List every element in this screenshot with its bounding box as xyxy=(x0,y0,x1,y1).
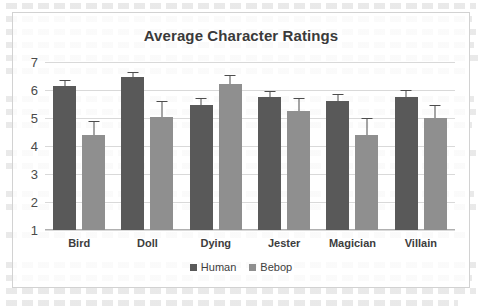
background-text-line xyxy=(6,288,476,294)
error-bar xyxy=(201,98,202,105)
legend-label: Human xyxy=(201,261,236,273)
bar-rect xyxy=(150,117,173,230)
bar-rect xyxy=(395,97,418,230)
error-bar xyxy=(337,94,338,102)
bar-human-dying[interactable] xyxy=(190,62,213,230)
bar-rect xyxy=(326,101,349,230)
bar-rect xyxy=(82,135,105,230)
background-text-line xyxy=(6,3,476,9)
legend-item-human[interactable]: Human xyxy=(190,261,236,273)
error-bar-cap xyxy=(196,98,207,99)
bar-bebop-dying[interactable] xyxy=(219,62,242,230)
y-tick-label-2: 2 xyxy=(31,196,38,209)
y-tick-label-7: 7 xyxy=(31,56,38,69)
bar-group-jester: Jester xyxy=(250,62,318,230)
chart-title: Average Character Ratings xyxy=(13,27,469,44)
x-tick-label-jester: Jester xyxy=(250,237,318,249)
error-bar xyxy=(93,121,94,135)
error-bar-cap xyxy=(88,121,99,122)
bar-bebop-jester[interactable] xyxy=(287,62,310,230)
error-bar xyxy=(406,90,407,97)
error-bar-cap xyxy=(430,105,441,106)
bar-rect xyxy=(121,77,144,230)
y-tick-label-4: 4 xyxy=(31,140,38,153)
bar-bebop-doll[interactable] xyxy=(150,62,173,230)
error-bar-cap xyxy=(361,118,372,119)
legend-item-bebop[interactable]: Bebop xyxy=(249,261,292,273)
bar-bebop-bird[interactable] xyxy=(82,62,105,230)
bar-human-villain[interactable] xyxy=(395,62,418,230)
plot-area: 7654321 BirdDollDyingJesterMagicianVilla… xyxy=(45,62,455,230)
bar-rect xyxy=(219,84,242,230)
bar-groups: BirdDollDyingJesterMagicianVillain xyxy=(45,62,455,230)
x-tick-label-villain: Villain xyxy=(387,237,455,249)
bar-rect xyxy=(53,86,76,230)
bar-rect xyxy=(287,111,310,230)
bar-rect xyxy=(258,97,281,230)
error-bar-cap xyxy=(293,98,304,99)
error-bar xyxy=(161,101,162,116)
background-text-line xyxy=(6,300,458,306)
bar-rect xyxy=(355,135,378,230)
error-bar-cap xyxy=(59,80,70,81)
bar-human-bird[interactable] xyxy=(53,62,76,230)
y-tick-label-6: 6 xyxy=(31,84,38,97)
bar-group-villain: Villain xyxy=(387,62,455,230)
error-bar-cap xyxy=(264,91,275,92)
bar-human-doll[interactable] xyxy=(121,62,144,230)
x-tick-label-dying: Dying xyxy=(182,237,250,249)
error-bar xyxy=(298,98,299,111)
x-tick-label-magician: Magician xyxy=(318,237,386,249)
bar-bebop-magician[interactable] xyxy=(355,62,378,230)
bar-group-bird: Bird xyxy=(45,62,113,230)
error-bar xyxy=(435,105,436,118)
bar-group-magician: Magician xyxy=(318,62,386,230)
chart-container: Average Character Ratings 7654321 BirdDo… xyxy=(12,12,470,288)
error-bar xyxy=(366,118,367,135)
bar-group-doll: Doll xyxy=(113,62,181,230)
error-bar-cap xyxy=(127,72,138,73)
bar-bebop-villain[interactable] xyxy=(424,62,447,230)
bebop-legend-swatch xyxy=(249,264,256,271)
y-tick-label-3: 3 xyxy=(31,168,38,181)
chart-legend: HumanBebop xyxy=(13,261,469,273)
x-tick-label-doll: Doll xyxy=(113,237,181,249)
y-tick-label-1: 1 xyxy=(31,224,38,237)
error-bar-cap xyxy=(332,94,343,95)
bar-group-dying: Dying xyxy=(182,62,250,230)
bar-rect xyxy=(190,105,213,230)
x-tick-label-bird: Bird xyxy=(45,237,113,249)
bar-human-magician[interactable] xyxy=(326,62,349,230)
error-bar-cap xyxy=(401,90,412,91)
error-bar-cap xyxy=(225,75,236,76)
legend-label: Bebop xyxy=(260,261,292,273)
bar-rect xyxy=(424,118,447,230)
human-legend-swatch xyxy=(190,264,197,271)
y-tick-label-5: 5 xyxy=(31,112,38,125)
gridline-1 xyxy=(45,230,455,231)
error-bar-cap xyxy=(156,101,167,102)
error-bar xyxy=(230,75,231,85)
bar-human-jester[interactable] xyxy=(258,62,281,230)
